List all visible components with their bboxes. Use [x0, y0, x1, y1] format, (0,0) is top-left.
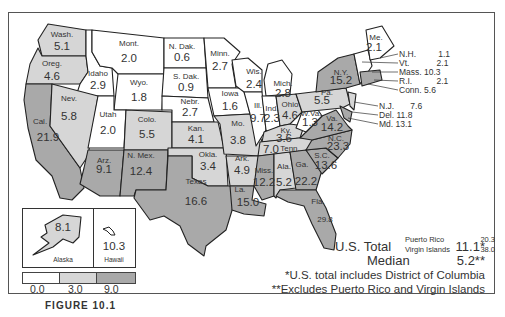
svg-text:2.1: 2.1 [366, 41, 382, 53]
svg-text:0.6: 0.6 [174, 51, 190, 63]
legend-tick: 3.0 [68, 283, 83, 295]
svg-text:9.1: 9.1 [96, 163, 112, 175]
svg-text:Wis.: Wis. [246, 67, 262, 76]
svg-text:8.1: 8.1 [55, 221, 71, 233]
svg-text:Iowa: Iowa [222, 89, 239, 98]
callout-md: Md. 13.1 [379, 119, 412, 129]
svg-text:Cal.: Cal. [33, 117, 47, 126]
svg-text:1.8: 1.8 [131, 91, 147, 103]
svg-text:2.3: 2.3 [264, 112, 280, 124]
svg-text:4.9: 4.9 [234, 164, 250, 176]
state-hawaii [103, 227, 115, 235]
svg-text:1.6: 1.6 [222, 100, 238, 112]
svg-text:29.8: 29.8 [317, 215, 333, 224]
svg-text:2.8: 2.8 [275, 87, 291, 99]
svg-text:Wyo.: Wyo. [130, 78, 148, 87]
svg-text:3.8: 3.8 [230, 134, 246, 146]
callout-conn: Conn. 5.6 [399, 85, 436, 95]
svg-text:Nebr.: Nebr. [180, 97, 199, 106]
footnote-2: **Excludes Puerto Rico and Virgin Island… [272, 282, 485, 296]
svg-text:N. Dak.: N. Dak. [169, 42, 196, 51]
svg-text:Idaho: Idaho [88, 69, 109, 78]
svg-text:Hawaii: Hawaii [104, 256, 124, 263]
svg-text:Ill.: Ill. [254, 101, 262, 110]
svg-text:5.1: 5.1 [54, 40, 70, 52]
svg-text:0.9: 0.9 [178, 81, 194, 93]
svg-text:15.2: 15.2 [330, 74, 352, 86]
alaska-hawaii-inset: 8.1 Alaska 10.3 Hawaii [22, 208, 136, 268]
svg-text:21.9: 21.9 [37, 131, 59, 143]
svg-text:Ark.: Ark. [235, 154, 249, 163]
svg-text:15.0: 15.0 [237, 196, 259, 208]
svg-text:Okla.: Okla. [199, 150, 218, 159]
summary-totals: U.S. Total11.1* Median5.2** [335, 240, 485, 268]
legend-swatch-high [97, 273, 135, 283]
svg-text:Fla.: Fla. [311, 197, 324, 206]
svg-text:Mo.: Mo. [231, 119, 244, 128]
svg-text:12.2: 12.2 [253, 176, 275, 188]
svg-text:14.2: 14.2 [321, 121, 343, 133]
svg-text:22.2: 22.2 [295, 175, 317, 187]
inset-shapes: 8.1 Alaska 10.3 Hawaii [23, 209, 135, 267]
svg-text:Wash.: Wash. [51, 30, 73, 39]
svg-text:La.: La. [234, 185, 245, 194]
svg-text:Ala.: Ala. [277, 162, 291, 171]
svg-text:2.9: 2.9 [90, 79, 106, 91]
state-nj [348, 92, 356, 110]
svg-text:10.3: 10.3 [103, 240, 125, 252]
svg-text:5.5: 5.5 [139, 128, 155, 140]
svg-text:N. Mex.: N. Mex. [127, 151, 155, 160]
svg-text:5.8: 5.8 [61, 110, 77, 122]
svg-text:5.5: 5.5 [314, 94, 330, 106]
svg-text:2.4: 2.4 [246, 78, 263, 90]
svg-text:12.4: 12.4 [130, 165, 153, 177]
total-row: U.S. Total11.1* [335, 240, 485, 254]
svg-text:Alaska: Alaska [53, 256, 73, 263]
state-mass-ct [360, 70, 382, 86]
svg-text:Minn.: Minn. [210, 49, 230, 58]
figure-caption: FIGURE 10.1 [45, 300, 116, 311]
svg-text:Utah: Utah [100, 110, 117, 119]
legend-tick: 0.0 [30, 283, 45, 295]
svg-text:S. Dak.: S. Dak. [173, 72, 199, 81]
svg-text:Tenn.: Tenn. [280, 144, 300, 153]
svg-text:Colo.: Colo. [138, 115, 157, 124]
svg-text:2.7: 2.7 [212, 60, 228, 72]
svg-text:2.0: 2.0 [121, 52, 137, 64]
svg-text:Ga.: Ga. [296, 160, 309, 169]
svg-text:16.6: 16.6 [185, 195, 207, 207]
svg-text:3.4: 3.4 [200, 160, 217, 172]
legend-swatch-low [23, 273, 60, 283]
svg-text:5.2: 5.2 [276, 176, 292, 188]
svg-text:Ohio: Ohio [282, 100, 299, 109]
svg-text:Oreg.: Oreg. [42, 59, 62, 68]
svg-text:7.0: 7.0 [263, 143, 279, 155]
svg-text:Mont.: Mont. [119, 39, 139, 48]
legend-tick: 9.0 [104, 283, 119, 295]
svg-text:1.3: 1.3 [302, 116, 318, 128]
footnote-1: *U.S. total includes District of Columbi… [272, 268, 485, 282]
median-row: Median5.2** [367, 254, 485, 268]
svg-text:Miss.: Miss. [255, 166, 274, 175]
svg-text:13.6: 13.6 [315, 159, 337, 171]
svg-text:4.6: 4.6 [282, 109, 298, 121]
svg-text:Texas: Texas [186, 177, 207, 186]
svg-text:2.0: 2.0 [100, 124, 116, 136]
svg-text:Kan.: Kan. [188, 124, 204, 133]
legend-swatch-mid [60, 273, 97, 283]
footnotes: *U.S. total includes District of Columbi… [272, 268, 485, 296]
svg-text:2.7: 2.7 [182, 106, 198, 118]
svg-text:4.6: 4.6 [44, 70, 60, 82]
svg-text:4.1: 4.1 [188, 133, 204, 145]
svg-text:23.3: 23.3 [327, 140, 349, 152]
svg-text:Nev.: Nev. [61, 94, 77, 103]
